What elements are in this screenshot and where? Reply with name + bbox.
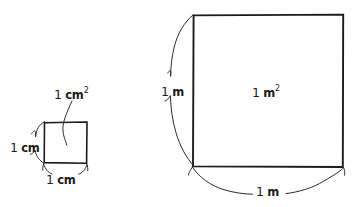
- small-square-bottom-side-label: 1cm: [46, 169, 76, 188]
- large-square-bottom-side-label: 1m: [256, 181, 279, 200]
- large-bottom-value: 1: [256, 184, 264, 199]
- small-square-left-side-label: 1cm: [10, 137, 40, 156]
- large-left-unit: m: [172, 85, 184, 99]
- diagram-canvas: 1cm2 1cm 1cm 1m2 1m 1m: [0, 0, 364, 207]
- large-left-value: 1: [161, 84, 169, 99]
- large-square-left-side-label: 1m: [161, 81, 184, 100]
- large-area-value: 1: [252, 85, 260, 100]
- large-square-area-label: 1m2: [252, 82, 280, 101]
- small-area-unit: cm: [65, 88, 84, 102]
- large-bottom-unit: m: [267, 185, 279, 199]
- small-bottom-unit: cm: [57, 173, 76, 187]
- small-area-exponent: 2: [84, 86, 89, 95]
- small-bottom-value: 1: [46, 172, 54, 187]
- small-square-area-label: 1cm2: [54, 84, 89, 103]
- small-left-unit: cm: [21, 141, 40, 155]
- small-area-value: 1: [54, 87, 62, 102]
- small-left-value: 1: [10, 140, 18, 155]
- large-area-exponent: 2: [275, 84, 280, 93]
- large-area-unit: m: [263, 86, 275, 100]
